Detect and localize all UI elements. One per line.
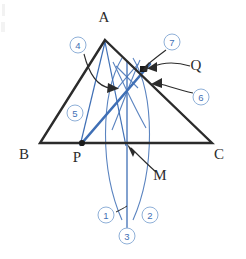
label-Q: Q bbox=[191, 57, 202, 73]
label-B: B bbox=[19, 146, 29, 162]
arrow-m-label-path bbox=[131, 148, 156, 172]
step-marker-4: 4 bbox=[70, 37, 86, 53]
arrow-step4-path bbox=[84, 54, 110, 88]
step-4-label: 4 bbox=[75, 40, 80, 51]
step-marker-5: 5 bbox=[67, 105, 83, 121]
step-6-label: 6 bbox=[198, 92, 203, 103]
label-M: M bbox=[153, 167, 166, 183]
step-7-label: 7 bbox=[169, 37, 174, 48]
arrow-q-label-path bbox=[152, 63, 190, 67]
step-1-label: 1 bbox=[103, 210, 108, 221]
geometry-canvas: A B C P Q M 1 2 3 4 bbox=[0, 0, 246, 259]
scan-artifact bbox=[1, 4, 5, 32]
step-2-label: 2 bbox=[147, 210, 152, 221]
annotation-arrows bbox=[84, 50, 193, 212]
point-p-dot bbox=[79, 140, 85, 146]
arrow-step6-path bbox=[157, 83, 193, 93]
label-C: C bbox=[214, 146, 224, 162]
construction-figure: A B C P Q M 1 2 3 4 bbox=[0, 0, 246, 259]
step-marker-1: 1 bbox=[98, 207, 114, 223]
step-marker-3: 3 bbox=[119, 228, 135, 244]
arc-from-p-large bbox=[106, 58, 123, 220]
step-marker-2: 2 bbox=[142, 207, 158, 223]
step-5-label: 5 bbox=[72, 108, 77, 119]
label-A: A bbox=[99, 9, 110, 25]
step-marker-6: 6 bbox=[193, 89, 209, 105]
step-marker-7: 7 bbox=[164, 34, 180, 50]
label-P: P bbox=[73, 149, 81, 165]
rays-from-apex bbox=[80, 42, 126, 146]
step-3-label: 3 bbox=[124, 231, 129, 242]
